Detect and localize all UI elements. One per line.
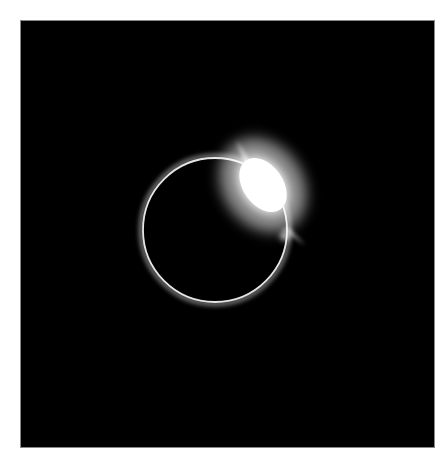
eclipse-image — [0, 0, 448, 463]
bright-bead — [281, 232, 289, 240]
